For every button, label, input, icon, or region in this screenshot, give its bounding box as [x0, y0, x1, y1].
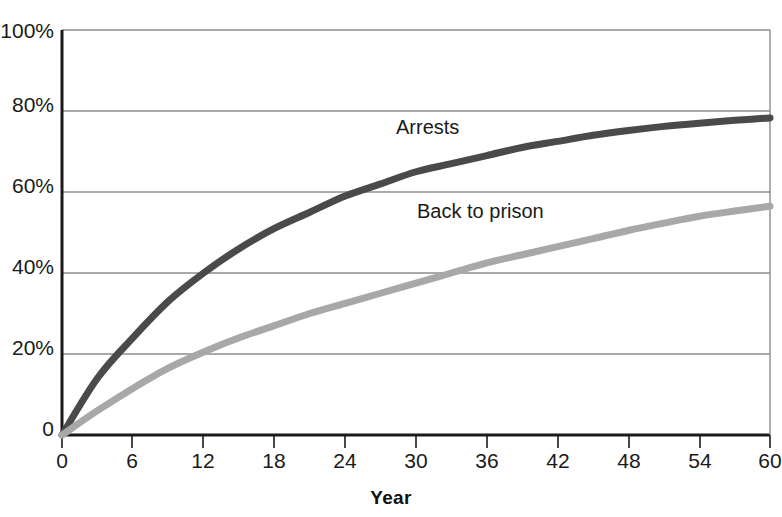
recidivism-line-chart: 100% 80% 60% 40% 20% 0: [0, 0, 782, 517]
x-tick-label: 60: [748, 450, 782, 471]
x-tick-label: 12: [181, 450, 225, 471]
x-tick-label: 0: [40, 450, 84, 471]
series-label-back-to-prison: Back to prison: [417, 200, 544, 223]
plot-canvas: [0, 0, 782, 517]
series-line-back-to-prison: [62, 206, 770, 435]
x-tick-label: 48: [607, 450, 651, 471]
x-axis-title: Year: [0, 487, 782, 509]
x-tick-label: 54: [678, 450, 722, 471]
series-label-arrests: Arrests: [396, 116, 459, 139]
x-tick-label: 30: [394, 450, 438, 471]
series-line-arrests: [62, 118, 770, 435]
x-tick-label: 24: [323, 450, 367, 471]
x-tick-label: 6: [110, 450, 154, 471]
x-tick-label: 18: [252, 450, 296, 471]
axis-lines: [62, 30, 770, 435]
data-series-group: [62, 118, 770, 435]
x-tick-label: 42: [536, 450, 580, 471]
x-axis-ticks: [62, 435, 770, 448]
x-tick-label: 36: [465, 450, 509, 471]
